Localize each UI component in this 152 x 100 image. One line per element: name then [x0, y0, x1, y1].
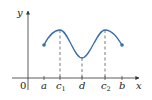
- function-curve: [44, 30, 122, 58]
- left-endpoint-dot: [42, 43, 46, 47]
- tick-label-c1: c1: [56, 80, 66, 93]
- tick-label-d: d: [79, 80, 85, 91]
- origin-label: 0: [20, 80, 26, 91]
- function-graph: y x 0 a c1 d c2 b: [0, 0, 152, 100]
- x-axis-label: x: [136, 80, 142, 91]
- y-axis-label: y: [16, 7, 23, 18]
- tick-label-b: b: [119, 80, 125, 91]
- tick-label-c2: c2: [101, 80, 111, 93]
- tick-label-a: a: [41, 80, 47, 91]
- right-endpoint-dot: [120, 43, 124, 47]
